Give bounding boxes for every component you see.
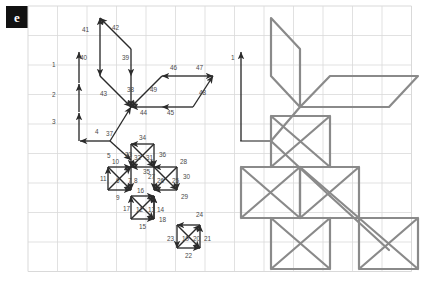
arrow-label-9: 9 — [116, 194, 120, 201]
arrow-label-47: 47 — [196, 64, 204, 71]
arrow-label-10: 10 — [112, 158, 120, 165]
arrow-label-26: 26 — [157, 177, 165, 184]
arrow-label-43: 43 — [100, 90, 108, 97]
arrow-label-31: 31 — [146, 154, 154, 161]
arrow-vector-42 — [100, 18, 131, 49]
arrow-label-39: 39 — [122, 54, 130, 61]
arrow-label-13: 13 — [148, 206, 156, 213]
arrow-label-32: 32 — [134, 154, 142, 161]
arrow-label-2: 2 — [52, 91, 56, 98]
background-grid — [28, 6, 412, 272]
arrow-label-34: 34 — [139, 134, 147, 141]
arrow-label-1: 1 — [52, 61, 56, 68]
arrow-label-44: 44 — [140, 109, 148, 116]
arrow-label-25: 25 — [172, 177, 180, 184]
left-arrow-labels: 1234567891011121314151617181920212223242… — [52, 24, 212, 259]
arrow-label-15: 15 — [139, 223, 147, 230]
arrow-label-20: 20 — [193, 235, 201, 242]
cross-box-center — [300, 167, 359, 218]
arrow-label-30: 30 — [183, 173, 191, 180]
arrow-vector-49 — [131, 76, 162, 107]
arrow-label-19: 19 — [182, 235, 190, 242]
arrow-label-24: 24 — [196, 211, 204, 218]
arrow-label-35: 35 — [143, 168, 151, 175]
arrow-label-8: 8 — [134, 177, 138, 184]
arrow-label-3: 3 — [52, 118, 56, 125]
arrow-label-7: 7 — [128, 177, 132, 184]
arrow-label-40: 40 — [80, 54, 88, 61]
arrow-label-11: 11 — [100, 175, 107, 182]
arrow-label-23: 23 — [167, 235, 175, 242]
arrow-label-6: 6 — [116, 177, 120, 184]
arrow-label-5: 5 — [107, 152, 111, 159]
arrow-label-29: 29 — [181, 193, 189, 200]
arrow-label-45: 45 — [167, 109, 175, 116]
arrow-label-4: 4 — [95, 128, 99, 135]
cross-box-bottom — [271, 218, 330, 269]
arrow-label-21: 21 — [204, 235, 212, 242]
arrow-label-16: 16 — [137, 187, 145, 194]
arrow-label-33: 33 — [125, 151, 133, 158]
figure-canvas: 1234567891011121314151617181920212223242… — [0, 0, 424, 293]
arrow-label-17: 17 — [123, 205, 131, 212]
arrow-label-14: 14 — [157, 206, 165, 213]
arrow-label-22: 22 — [185, 252, 193, 259]
arrow-label-46: 46 — [170, 64, 178, 71]
arrow-label-36: 36 — [159, 151, 167, 158]
arrow-label-42: 42 — [112, 24, 120, 31]
right-figure-paths — [241, 18, 418, 269]
right-start-arrow-label: 1 — [231, 54, 235, 61]
arrow-label-49: 49 — [150, 86, 158, 93]
arrow-label-38: 38 — [127, 86, 135, 93]
cross-box-left — [241, 167, 300, 218]
arrow-label-41: 41 — [82, 26, 90, 33]
figure-root: e 12345678910111213141516171819202122232… — [0, 0, 424, 293]
upper-right-wing — [300, 76, 418, 107]
arrow-label-37: 37 — [106, 130, 114, 137]
arrow-label-48: 48 — [199, 89, 207, 96]
arrow-label-18: 18 — [159, 216, 167, 223]
arrow-label-28: 28 — [180, 158, 188, 165]
arrow-label-12: 12 — [136, 206, 144, 213]
cross-box-corner — [359, 218, 418, 269]
